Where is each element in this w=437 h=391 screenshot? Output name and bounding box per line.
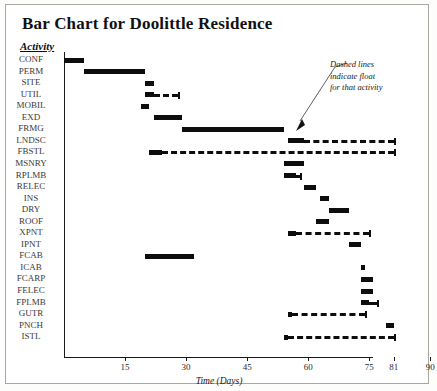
bar-fbstl bbox=[149, 150, 161, 155]
activity-label-pnch: PNCH bbox=[0, 320, 62, 330]
x-tick-30 bbox=[186, 357, 187, 361]
activity-label-exd: EXD bbox=[0, 112, 62, 122]
activity-label-msnry: MSNRY bbox=[0, 158, 62, 168]
bar-roof bbox=[316, 219, 328, 224]
float-cap-fplmb bbox=[377, 300, 379, 307]
bar-util bbox=[145, 92, 153, 97]
float-cap-xpnt bbox=[369, 230, 371, 237]
activity-label-util: UTIL bbox=[0, 89, 62, 99]
float-cap-istl bbox=[394, 334, 396, 341]
annotation-line: Dashed lines bbox=[330, 59, 382, 71]
bar-gutr bbox=[288, 312, 292, 317]
x-tick-label-15: 15 bbox=[121, 362, 130, 372]
x-tick-15 bbox=[125, 357, 126, 361]
activity-label-ipnt: IPNT bbox=[0, 239, 62, 249]
activity-label-fplmb: FPLMB bbox=[0, 297, 62, 307]
activity-label-mobil: MOBIL bbox=[0, 100, 62, 110]
activity-label-fcarp: FCARP bbox=[0, 273, 62, 283]
activity-label-rplmb: RPLMB bbox=[0, 170, 62, 180]
bar-fcarp bbox=[361, 277, 373, 282]
bar-exd bbox=[154, 115, 182, 120]
annotation-line: indicate float bbox=[330, 71, 382, 83]
float-line-xpnt bbox=[296, 232, 369, 235]
bar-icab bbox=[361, 265, 365, 270]
activity-label-xpnt: XPNT bbox=[0, 227, 62, 237]
bar-conf bbox=[64, 58, 84, 63]
float-cap-gutr bbox=[365, 311, 367, 318]
x-tick-label-30: 30 bbox=[182, 362, 191, 372]
bar-rplmb bbox=[284, 173, 296, 178]
bar-felec bbox=[361, 289, 373, 294]
activity-label-gutr: GUTR bbox=[0, 308, 62, 318]
activity-label-icab: ICAB bbox=[0, 262, 62, 272]
bar-frmg bbox=[182, 127, 284, 132]
bar-site bbox=[145, 81, 153, 86]
bar-perm bbox=[84, 69, 145, 74]
bar-pnch bbox=[386, 323, 394, 328]
float-line-util bbox=[154, 94, 178, 97]
x-tick-label-81: 81 bbox=[389, 362, 398, 372]
bar-xpnt bbox=[288, 231, 296, 236]
x-tick-81 bbox=[394, 357, 395, 361]
x-tick-90 bbox=[430, 357, 431, 361]
float-cap-rplmb bbox=[300, 173, 302, 180]
x-axis-line bbox=[64, 357, 373, 358]
activity-label-fbstl: FBSTL bbox=[0, 146, 62, 156]
activity-label-fcab: FCAB bbox=[0, 250, 62, 260]
float-line-istl bbox=[288, 336, 394, 339]
bar-fplmb bbox=[361, 300, 369, 305]
x-axis-label: Time (Days) bbox=[196, 376, 243, 386]
float-cap-fbstl bbox=[394, 149, 396, 156]
float-line-gutr bbox=[292, 313, 365, 316]
bar-msnry bbox=[284, 161, 304, 166]
activity-label-lndsc: LNDSC bbox=[0, 135, 62, 145]
bar-fcab bbox=[145, 254, 194, 259]
bar-ipnt bbox=[349, 242, 361, 247]
float-annotation-text: Dashed linesindicate floatfor that activ… bbox=[330, 59, 382, 94]
activity-label-ins: INS bbox=[0, 193, 62, 203]
x-tick-75 bbox=[369, 357, 370, 361]
bar-istl bbox=[284, 335, 288, 340]
activity-label-column: CONFPERMSITEUTILMOBILEXDFRMGLNDSCFBSTLMS… bbox=[0, 0, 62, 391]
annotation-line: for that activity bbox=[330, 82, 382, 94]
activity-label-conf: CONF bbox=[0, 54, 62, 64]
activity-label-relec: RELEC bbox=[0, 181, 62, 191]
activity-label-perm: PERM bbox=[0, 66, 62, 76]
activity-label-site: SITE bbox=[0, 77, 62, 87]
activity-label-istl: ISTL bbox=[0, 331, 62, 341]
x-tick-label-60: 60 bbox=[304, 362, 313, 372]
float-line-fplmb bbox=[369, 302, 377, 305]
x-tick-45 bbox=[247, 357, 248, 361]
bar-mobil bbox=[141, 104, 149, 109]
bar-dry bbox=[329, 208, 349, 213]
activity-label-roof: ROOF bbox=[0, 216, 62, 226]
activity-label-felec: FELEC bbox=[0, 285, 62, 295]
x-tick-label-75: 75 bbox=[365, 362, 374, 372]
figure-page: Bar Chart for Doolittle Residence Activi… bbox=[0, 0, 437, 391]
float-cap-util bbox=[178, 92, 180, 99]
activity-label-frmg: FRMG bbox=[0, 123, 62, 133]
x-tick-60 bbox=[308, 357, 309, 361]
activity-label-dry: DRY bbox=[0, 204, 62, 214]
float-line-fbstl bbox=[162, 151, 394, 154]
x-tick-label-45: 45 bbox=[243, 362, 252, 372]
bar-ins bbox=[320, 196, 328, 201]
float-cap-lndsc bbox=[394, 138, 396, 145]
x-tick-label-90: 90 bbox=[426, 362, 435, 372]
bar-relec bbox=[304, 185, 316, 190]
y-axis-line bbox=[64, 52, 65, 358]
